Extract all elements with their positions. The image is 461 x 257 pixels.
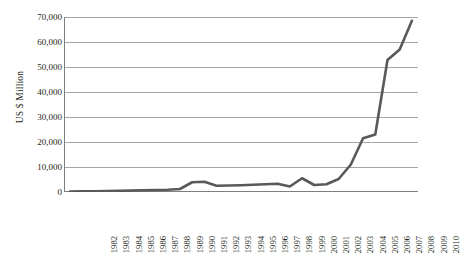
x-tick-label: 2000 xyxy=(330,236,339,257)
x-tick-label: 1988 xyxy=(183,236,192,257)
x-tick-label: 2005 xyxy=(391,236,400,257)
y-tick-label: 60,000 xyxy=(28,38,62,47)
x-tick-label: 1994 xyxy=(257,236,266,257)
y-axis-title: US $ Million xyxy=(15,37,25,157)
x-tick-label: 1982 xyxy=(110,236,119,257)
plot-area xyxy=(64,17,418,192)
y-tick-label: 20,000 xyxy=(28,138,62,147)
data-series-line xyxy=(70,21,412,192)
x-tick-label: 1999 xyxy=(318,236,327,257)
x-tick-label: 2010 xyxy=(452,236,461,257)
x-tick-label: 1998 xyxy=(305,236,314,257)
x-tick-label: 1997 xyxy=(293,236,302,257)
x-tick-label: 1996 xyxy=(281,236,290,257)
y-tick-label: 30,000 xyxy=(28,113,62,122)
plot-svg xyxy=(64,17,418,192)
axis-lines xyxy=(64,17,418,192)
x-tick-label: 2007 xyxy=(415,236,424,257)
x-tick-label: 1983 xyxy=(122,236,131,257)
x-tick-label: 2003 xyxy=(366,236,375,257)
x-tick-label: 2001 xyxy=(342,236,351,257)
x-tick-label: 1987 xyxy=(171,236,180,257)
x-tick-label: 1991 xyxy=(220,236,229,257)
y-tick-label: 50,000 xyxy=(28,63,62,72)
y-tick-label: 10,000 xyxy=(28,163,62,172)
x-axis-tick-labels: 1982198319841985198619871988198919901991… xyxy=(64,194,418,240)
x-tick-label: 1986 xyxy=(159,236,168,257)
x-tick-label: 1989 xyxy=(196,236,205,257)
y-tick-label: 0 xyxy=(28,188,62,197)
x-tick-label: 2006 xyxy=(403,236,412,257)
gridlines xyxy=(64,18,418,193)
y-tick-label: 40,000 xyxy=(28,88,62,97)
y-tick-label: 70,000 xyxy=(28,13,62,22)
x-tick-label: 1995 xyxy=(269,236,278,257)
x-tick-label: 2004 xyxy=(379,236,388,257)
y-axis-tick-labels: 010,00020,00030,00040,00050,00060,00070,… xyxy=(28,0,62,200)
x-tick-label: 1985 xyxy=(147,236,156,257)
x-tick-label: 1992 xyxy=(232,236,241,257)
x-tick-label: 2002 xyxy=(354,236,363,257)
x-tick-label: 1984 xyxy=(135,236,144,257)
x-tick-label: 1993 xyxy=(244,236,253,257)
x-tick-label: 1990 xyxy=(208,236,217,257)
x-tick-label: 2008 xyxy=(427,236,436,257)
x-tick-label: 2009 xyxy=(440,236,449,257)
